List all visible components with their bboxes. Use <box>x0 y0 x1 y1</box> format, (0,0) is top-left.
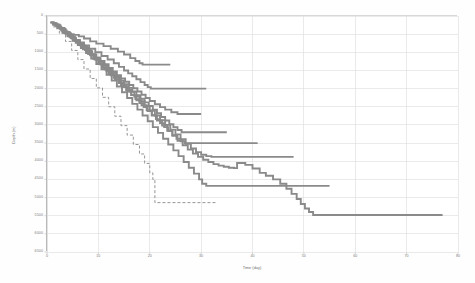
chart-figure: 0102030405060708005001000150020002500300… <box>0 0 475 283</box>
series-line <box>50 23 170 65</box>
plot-area: 0102030405060708005001000150020002500300… <box>46 15 457 251</box>
tick-label-layer: 0102030405060708005001000150020002500300… <box>47 16 457 251</box>
x-tick-label: 60 <box>353 255 357 259</box>
x-tick-label: 70 <box>405 255 409 259</box>
y-tick-label: 6500 <box>35 250 43 254</box>
y-tick-label: 5500 <box>35 214 43 218</box>
y-tick-label: 0 <box>41 14 43 18</box>
series-line <box>52 23 227 132</box>
y-tick-label: 2000 <box>35 87 43 91</box>
series-line <box>53 27 216 203</box>
y-tick-label: 2500 <box>35 105 43 109</box>
series-line <box>51 22 206 88</box>
x-axis-title: Time (day) <box>243 265 261 270</box>
x-tick-label: 10 <box>96 255 100 259</box>
y-tick-label: 500 <box>37 32 43 36</box>
y-tick-label: 4000 <box>35 159 43 163</box>
x-tick-label: 30 <box>199 255 203 259</box>
y-tick-label: 1500 <box>35 69 43 73</box>
series-line <box>55 25 329 186</box>
series-layer <box>47 16 457 251</box>
y-tick-label: 4500 <box>35 178 43 182</box>
y-tick-label: 6000 <box>35 232 43 236</box>
series-line <box>53 24 257 143</box>
y-tick-label: 1000 <box>35 51 43 55</box>
x-tick-label: 20 <box>148 255 152 259</box>
x-tick-label: 50 <box>302 255 306 259</box>
y-tick-label: 5000 <box>35 196 43 200</box>
x-tick-label: 0 <box>46 255 48 259</box>
grid-layer <box>47 16 457 251</box>
x-tick-label: 40 <box>250 255 254 259</box>
y-tick-label: 3500 <box>35 141 43 145</box>
series-line <box>52 25 293 157</box>
y-axis-title: Depth (m) <box>11 126 16 143</box>
series-line <box>52 23 202 114</box>
depth-time-curves <box>47 16 458 252</box>
series-line <box>54 24 442 215</box>
y-tick-label: 3000 <box>35 123 43 127</box>
x-tick-label: 80 <box>456 255 460 259</box>
gridlines <box>47 16 458 252</box>
